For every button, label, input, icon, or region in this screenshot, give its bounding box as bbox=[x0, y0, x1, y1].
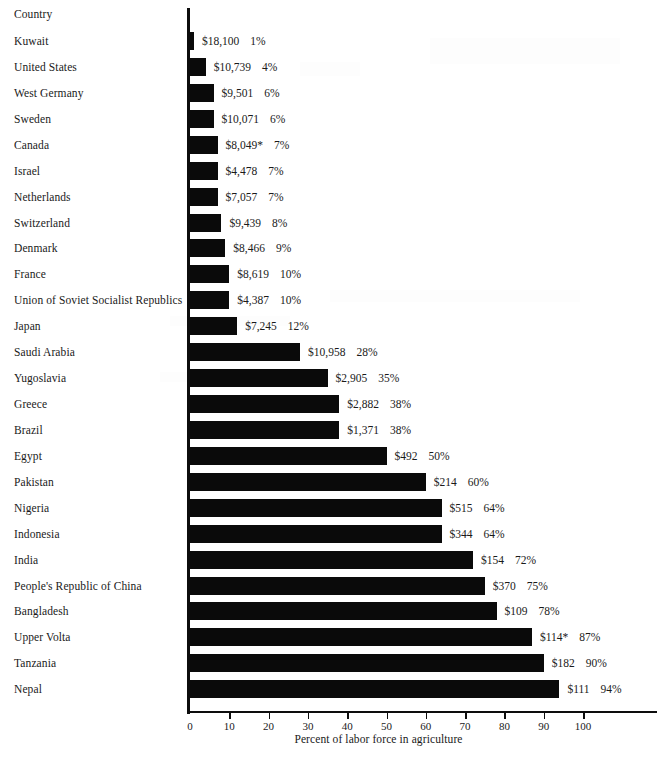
bar-value-labels: $10,0716% bbox=[222, 110, 286, 128]
bar bbox=[190, 602, 497, 620]
x-axis-tick bbox=[504, 713, 506, 719]
gnp-value: $111 bbox=[567, 680, 589, 698]
x-axis-tick bbox=[308, 713, 310, 719]
gnp-value: $9,439 bbox=[229, 214, 261, 232]
chart-row: Netherlands$7,0577% bbox=[0, 188, 661, 206]
x-axis-line bbox=[187, 711, 657, 713]
bar bbox=[190, 214, 221, 232]
bar bbox=[190, 577, 485, 595]
percent-value: 64% bbox=[484, 499, 505, 517]
bar bbox=[190, 58, 206, 76]
x-axis-tick-label: 90 bbox=[538, 720, 549, 732]
bar bbox=[190, 628, 532, 646]
country-label: West Germany bbox=[14, 84, 84, 102]
country-label: Switzerland bbox=[14, 214, 70, 232]
bar bbox=[190, 654, 544, 672]
bar-value-labels: $8,049*7% bbox=[226, 136, 290, 154]
chart-row: Israel$4,4787% bbox=[0, 162, 661, 180]
bar-value-labels: $11194% bbox=[567, 680, 621, 698]
gnp-value: $4,387 bbox=[237, 291, 269, 309]
bar bbox=[190, 421, 339, 439]
bar-value-labels: $8,4669% bbox=[233, 239, 291, 257]
x-axis-tick bbox=[347, 713, 349, 719]
country-label: Saudi Arabia bbox=[14, 343, 75, 361]
bar-value-labels: $34464% bbox=[450, 525, 505, 543]
country-label: India bbox=[14, 551, 38, 569]
percent-value: 7% bbox=[268, 162, 283, 180]
chart-row: Japan$7,24512% bbox=[0, 317, 661, 335]
bar bbox=[190, 188, 218, 206]
gnp-value: $9,501 bbox=[222, 84, 254, 102]
country-label: Netherlands bbox=[14, 188, 71, 206]
country-label: Israel bbox=[14, 162, 40, 180]
chart-row: Nepal$11194% bbox=[0, 680, 661, 698]
bar-value-labels: $7,0577% bbox=[226, 188, 284, 206]
country-label: Yugoslavia bbox=[14, 369, 66, 387]
gnp-value: $154 bbox=[481, 551, 504, 569]
chart-row: People's Republic of China$37075% bbox=[0, 577, 661, 595]
percent-value: 60% bbox=[468, 473, 489, 491]
country-column-header: Country bbox=[14, 8, 52, 20]
country-label: Japan bbox=[14, 317, 41, 335]
x-axis-tick bbox=[229, 713, 231, 719]
bar-value-labels: $9,5016% bbox=[222, 84, 280, 102]
chart-row: India$15472% bbox=[0, 551, 661, 569]
x-axis-tick bbox=[544, 713, 546, 719]
country-label: Kuwait bbox=[14, 32, 48, 50]
percent-value: 50% bbox=[429, 447, 450, 465]
gnp-value: $4,478 bbox=[226, 162, 258, 180]
country-label: Bangladesh bbox=[14, 602, 69, 620]
country-label: Denmark bbox=[14, 239, 58, 257]
percent-value: 78% bbox=[539, 602, 560, 620]
percent-value: 7% bbox=[268, 188, 283, 206]
gnp-value: $8,049* bbox=[226, 136, 263, 154]
chart-row: Pakistan$21460% bbox=[0, 473, 661, 491]
gnp-value: $2,882 bbox=[347, 395, 379, 413]
chart-row: Canada$8,049*7% bbox=[0, 136, 661, 154]
percent-value: 35% bbox=[378, 369, 399, 387]
bar bbox=[190, 473, 426, 491]
country-label: Sweden bbox=[14, 110, 51, 128]
chart-row: Saudi Arabia$10,95828% bbox=[0, 343, 661, 361]
percent-value: 6% bbox=[264, 84, 279, 102]
bar bbox=[190, 32, 194, 50]
country-label: Greece bbox=[14, 395, 47, 413]
bar bbox=[190, 499, 442, 517]
bar bbox=[190, 291, 229, 309]
country-label: Indonesia bbox=[14, 525, 60, 543]
x-axis-tick bbox=[426, 713, 428, 719]
country-label: Nepal bbox=[14, 680, 42, 698]
bar-value-labels: $37075% bbox=[493, 577, 548, 595]
country-label: Union of Soviet Socialist Republics bbox=[14, 291, 182, 309]
percent-value: 75% bbox=[527, 577, 548, 595]
country-label: Tanzania bbox=[14, 654, 56, 672]
bar-value-labels: $15472% bbox=[481, 551, 536, 569]
percent-value: 90% bbox=[586, 654, 607, 672]
bar-chart: Country Kuwait$18,1001%United States$10,… bbox=[0, 0, 661, 758]
bar-value-labels: $2,88238% bbox=[347, 395, 411, 413]
x-axis-tick bbox=[583, 713, 585, 719]
percent-value: 8% bbox=[272, 214, 287, 232]
country-label: Nigeria bbox=[14, 499, 49, 517]
gnp-value: $515 bbox=[450, 499, 473, 517]
chart-row: Denmark$8,4669% bbox=[0, 239, 661, 257]
x-axis-tick-label: 100 bbox=[575, 720, 592, 732]
gnp-value: $370 bbox=[493, 577, 516, 595]
chart-row: Switzerland$9,4398% bbox=[0, 214, 661, 232]
gnp-value: $109 bbox=[505, 602, 528, 620]
x-axis-tick-label: 80 bbox=[499, 720, 510, 732]
gnp-value: $114* bbox=[540, 628, 568, 646]
bar-value-labels: $4,38710% bbox=[237, 291, 301, 309]
bar bbox=[190, 239, 225, 257]
chart-row: United States$10,7394% bbox=[0, 58, 661, 76]
percent-value: 7% bbox=[274, 136, 289, 154]
percent-value: 64% bbox=[484, 525, 505, 543]
bar-value-labels: $10,7394% bbox=[214, 58, 278, 76]
gnp-value: $182 bbox=[552, 654, 575, 672]
bar-value-labels: $8,61910% bbox=[237, 265, 301, 283]
x-axis-tick-label: 30 bbox=[302, 720, 313, 732]
country-label: France bbox=[14, 265, 46, 283]
chart-row: Upper Volta$114*87% bbox=[0, 628, 661, 646]
chart-row: Egypt$49250% bbox=[0, 447, 661, 465]
bar bbox=[190, 317, 237, 335]
